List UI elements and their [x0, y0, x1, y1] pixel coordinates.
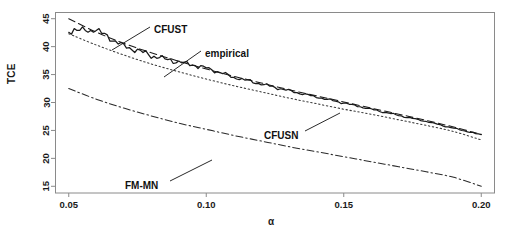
y-tick-label: 25: [41, 124, 52, 135]
data-series-group: [69, 19, 482, 187]
x-tick-label: 0.10: [197, 199, 216, 210]
y-tick-label: 15: [41, 180, 52, 191]
y-axis-title: TCE: [6, 63, 17, 84]
annotation-label-fm-mn: FM-MN: [125, 180, 158, 191]
y-tick-label: 35: [41, 69, 52, 80]
annotation-leader-cfust: [112, 27, 150, 50]
annotation-leader-fm-mn: [170, 160, 212, 181]
chart-canvas: 15202530354045 0.050.100.150.20 CFUSTemp…: [0, 0, 517, 236]
chart-figure: 15202530354045 0.050.100.150.20 CFUSTemp…: [0, 0, 517, 236]
x-tick-label: 0.15: [335, 199, 354, 210]
x-axis-title: α: [268, 216, 274, 227]
series-line-cfust: [69, 19, 482, 135]
plot-border: [56, 13, 495, 194]
plot-frame: [56, 13, 495, 194]
y-tick-label: 30: [41, 97, 52, 108]
annotation-leader-cfusn: [305, 113, 340, 131]
y-tick-label: 45: [41, 13, 52, 24]
x-tick-label: 0.20: [472, 199, 491, 210]
x-tick-label: 0.05: [60, 199, 79, 210]
annotation-label-cfust: CFUST: [154, 24, 187, 35]
annotation-label-empirical: empirical: [205, 48, 249, 59]
y-tick-label: 40: [41, 41, 52, 52]
x-axis: 0.050.100.150.20: [60, 193, 491, 210]
annotation-label-cfusn: CFUSN: [264, 130, 298, 141]
y-axis: 15202530354045: [41, 13, 56, 192]
y-tick-label: 20: [41, 153, 52, 164]
annotation-group: CFUSTempiricalCFUSNFM-MN: [112, 24, 340, 191]
